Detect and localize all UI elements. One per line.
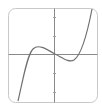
graph-svg [0,0,102,112]
function-graph-icon [0,0,102,112]
frame [9,9,98,103]
